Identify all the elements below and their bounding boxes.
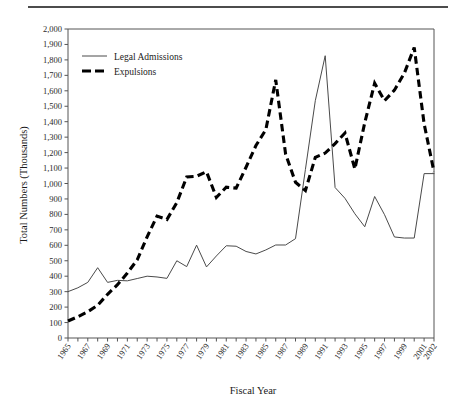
y-tick-label: 1,600 <box>43 86 62 96</box>
y-tick-label: 1,700 <box>43 70 62 80</box>
y-tick-label: 1,500 <box>43 101 62 111</box>
series-line-expulsions <box>68 48 434 321</box>
x-tick-label: 1989 <box>292 341 310 361</box>
y-tick-label: 200 <box>49 302 62 312</box>
x-tick-label: 1979 <box>193 341 211 361</box>
y-tick-label: 0 <box>58 333 62 343</box>
x-tick-label: 1983 <box>233 341 251 361</box>
y-axis-label: Total Numbers (Thousands) <box>18 126 30 244</box>
y-tick-label: 300 <box>49 287 62 297</box>
legend-label: Legal Admissions <box>114 52 183 62</box>
series-layer <box>68 48 434 321</box>
x-tick-label: 1987 <box>273 341 291 361</box>
y-tick-label: 500 <box>49 256 62 266</box>
y-tick-label: 600 <box>49 240 62 250</box>
x-axis-tick-labels: 1965196719691971197319751977197919811983… <box>55 341 439 361</box>
x-tick-label: 1975 <box>154 341 172 361</box>
x-tick-label: 1977 <box>174 341 192 361</box>
y-tick-label: 800 <box>49 209 62 219</box>
y-tick-label: 1,100 <box>43 163 62 173</box>
x-tick-label: 1967 <box>75 341 93 361</box>
y-tick-label: 1,000 <box>43 179 62 189</box>
x-tick-label: 1997 <box>371 341 389 361</box>
x-tick-label: 1985 <box>253 341 271 361</box>
x-tick-label: 1981 <box>213 341 231 361</box>
x-axis-label: Fiscal Year <box>230 385 277 396</box>
y-tick-label: 400 <box>49 271 62 281</box>
x-tick-label: 1973 <box>134 341 152 361</box>
x-tick-label: 1995 <box>352 341 370 361</box>
figure-container: 01002003004005006007008009001,0001,1001,… <box>0 0 476 402</box>
y-tick-label: 700 <box>49 225 62 235</box>
y-tick-label: 2,000 <box>43 24 62 34</box>
x-tick-label: 1991 <box>312 341 330 361</box>
x-tick-label: 1965 <box>55 341 73 361</box>
line-chart: 01002003004005006007008009001,0001,1001,… <box>0 0 476 402</box>
y-tick-label: 900 <box>49 194 62 204</box>
y-tick-label: 1,800 <box>43 55 62 65</box>
chart-legend: Legal AdmissionsExpulsions <box>82 52 183 77</box>
y-tick-label: 1,300 <box>43 132 62 142</box>
x-tick-label: 1971 <box>114 341 132 361</box>
y-tick-label: 1,200 <box>43 148 62 158</box>
x-tick-label: 1969 <box>94 341 112 361</box>
y-axis-ticks <box>65 29 69 338</box>
y-tick-label: 1,400 <box>43 117 62 127</box>
x-tick-label: 1999 <box>391 341 409 361</box>
y-axis-tick-labels: 01002003004005006007008009001,0001,1001,… <box>43 24 62 343</box>
legend-label: Expulsions <box>114 67 157 77</box>
x-axis-ticks <box>68 338 434 342</box>
x-tick-label: 1993 <box>332 341 350 361</box>
y-tick-label: 1,900 <box>43 39 62 49</box>
y-tick-label: 100 <box>49 318 62 328</box>
